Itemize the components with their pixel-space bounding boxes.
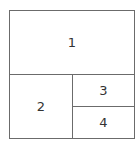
panel-3-label: 3 — [99, 84, 107, 97]
panel-2-label: 2 — [37, 100, 45, 113]
panel-1-label: 1 — [68, 36, 76, 49]
panel-2: 2 — [9, 74, 73, 139]
panel-1: 1 — [9, 10, 135, 75]
panel-4: 4 — [72, 106, 135, 139]
panel-3: 3 — [72, 74, 135, 107]
panel-4-label: 4 — [99, 116, 107, 129]
